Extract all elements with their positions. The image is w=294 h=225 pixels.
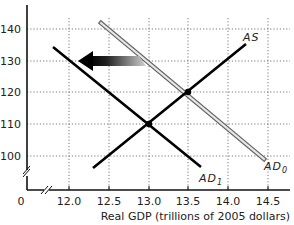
ad-as-chart: 140 130 120 110 100 0 12.0 12.5 13.0 13.… xyxy=(0,0,294,225)
ad0-label: AD0 xyxy=(263,160,288,175)
x-tick-12-0: 12.0 xyxy=(57,195,82,208)
x-tick-14-0: 14.0 xyxy=(216,195,241,208)
ad1-label: AD1 xyxy=(198,172,223,187)
y-tick-130: 130 xyxy=(0,55,21,68)
x-tick-13-0: 13.0 xyxy=(137,195,162,208)
x-tick-12-5: 12.5 xyxy=(97,195,122,208)
x-tick-14-5: 14.5 xyxy=(256,195,281,208)
x-tick-13-5: 13.5 xyxy=(176,195,201,208)
y-tick-100: 100 xyxy=(0,150,21,163)
as-label: AS xyxy=(242,31,260,44)
ad0-curve xyxy=(101,23,264,159)
y-tick-110: 110 xyxy=(0,118,21,131)
grid-horizontal xyxy=(27,29,290,156)
origin-label: 0 xyxy=(18,195,25,208)
y-tick-120: 120 xyxy=(0,86,21,99)
y-tick-140: 140 xyxy=(0,23,21,36)
equilibrium-point-new xyxy=(146,121,152,127)
x-axis-title: Real GDP (trillions of 2005 dollars) xyxy=(101,210,290,223)
equilibrium-point-initial xyxy=(185,89,191,95)
